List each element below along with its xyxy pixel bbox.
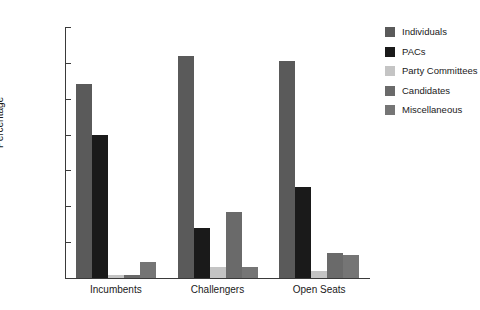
bar <box>178 56 194 278</box>
bar <box>279 61 295 278</box>
bar <box>108 275 124 278</box>
bar <box>295 187 311 278</box>
bar-group <box>279 27 359 278</box>
legend-swatch-icon <box>385 105 395 115</box>
y-axis-title: Percentage <box>0 97 5 148</box>
legend-swatch-icon <box>385 86 395 96</box>
legend-item: Party Committees <box>385 66 478 76</box>
bar <box>343 255 359 278</box>
bar <box>327 253 343 278</box>
plot-area <box>65 27 370 278</box>
legend-label: Individuals <box>402 27 447 37</box>
bar <box>92 135 108 278</box>
x-axis-label: Open Seats <box>293 284 346 295</box>
legend-item: PACs <box>385 47 478 57</box>
x-axis-label: Incumbents <box>90 284 142 295</box>
legend: IndividualsPACsParty CommitteesCandidate… <box>385 27 478 115</box>
bar <box>140 262 156 278</box>
legend-item: Candidates <box>385 86 478 96</box>
bar-group <box>76 27 156 278</box>
bar <box>210 267 226 278</box>
bar <box>76 84 92 278</box>
legend-item: Individuals <box>385 27 478 37</box>
bar <box>124 275 140 278</box>
legend-label: PACs <box>402 47 426 57</box>
bar-chart: Percentage 010203040506070 IncumbentsCha… <box>0 0 480 310</box>
bar <box>226 212 242 278</box>
bar <box>242 267 258 278</box>
legend-label: Party Committees <box>402 66 478 76</box>
legend-swatch-icon <box>385 47 395 57</box>
legend-item: Miscellaneous <box>385 105 478 115</box>
legend-swatch-icon <box>385 66 395 76</box>
x-axis-label: Challengers <box>191 284 244 295</box>
legend-swatch-icon <box>385 27 395 37</box>
x-axis-line <box>65 278 370 279</box>
legend-label: Miscellaneous <box>402 105 462 115</box>
bar-group <box>178 27 258 278</box>
bar <box>194 228 210 278</box>
bar <box>311 271 327 278</box>
legend-label: Candidates <box>402 86 450 96</box>
